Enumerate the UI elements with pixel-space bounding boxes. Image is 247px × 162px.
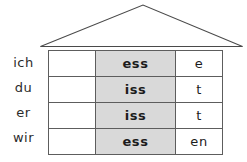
cell-blank-er[interactable] (49, 103, 96, 129)
cell-blank-du[interactable] (49, 77, 96, 103)
cell-blank-ich[interactable] (49, 51, 96, 77)
table-row: ess e (49, 51, 223, 77)
pronoun-label-column: ich du er wir (0, 50, 47, 150)
cell-ending-du[interactable]: t (176, 77, 223, 103)
cell-ending-ich[interactable]: e (176, 51, 223, 77)
conjugation-table: ess e iss t iss t ess en (48, 50, 223, 155)
diagram-canvas: ich du er wir ess e iss t iss t (0, 0, 247, 162)
pronoun-label-wir: wir (0, 125, 47, 150)
table-row: iss t (49, 77, 223, 103)
pronoun-label-ich: ich (0, 50, 47, 75)
cell-stem-er[interactable]: iss (96, 103, 176, 129)
cell-stem-du[interactable]: iss (96, 77, 176, 103)
pronoun-label-er: er (0, 100, 47, 125)
cell-ending-wir[interactable]: en (176, 129, 223, 155)
cell-stem-ich[interactable]: ess (96, 51, 176, 77)
table-row: ess en (49, 129, 223, 155)
cell-blank-wir[interactable] (49, 129, 96, 155)
table-row: iss t (49, 103, 223, 129)
cell-ending-er[interactable]: t (176, 103, 223, 129)
cell-stem-wir[interactable]: ess (96, 129, 176, 155)
pronoun-label-du: du (0, 75, 47, 100)
house-roof-triangle-icon (0, 0, 247, 52)
